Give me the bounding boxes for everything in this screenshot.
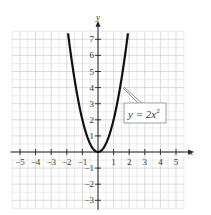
svg-text:5: 5 bbox=[90, 67, 95, 77]
svg-text:−3: −3 bbox=[84, 195, 94, 205]
svg-text:1: 1 bbox=[90, 131, 95, 141]
svg-text:2: 2 bbox=[127, 157, 132, 167]
svg-text:2: 2 bbox=[90, 115, 95, 125]
svg-text:−2: −2 bbox=[62, 157, 72, 167]
x-axis-label: x bbox=[188, 147, 193, 157]
axes bbox=[11, 21, 194, 210]
y-axis-label: y bbox=[95, 12, 100, 22]
svg-text:−2: −2 bbox=[84, 179, 94, 189]
svg-text:−5: −5 bbox=[15, 157, 25, 167]
svg-text:1: 1 bbox=[111, 157, 116, 167]
svg-text:4: 4 bbox=[90, 83, 95, 93]
svg-text:3: 3 bbox=[90, 99, 95, 109]
curve-label-exponent: 2 bbox=[156, 107, 160, 115]
parabola-chart: −5−4−3−2−112345−3−2−11234567 y = 2x2 x y bbox=[0, 0, 211, 215]
svg-text:3: 3 bbox=[143, 157, 148, 167]
curve-label-text: y = 2x bbox=[127, 108, 156, 120]
svg-text:−3: −3 bbox=[46, 157, 56, 167]
svg-text:−4: −4 bbox=[31, 157, 41, 167]
svg-text:7: 7 bbox=[90, 34, 95, 44]
svg-text:6: 6 bbox=[90, 50, 95, 60]
svg-text:4: 4 bbox=[158, 157, 163, 167]
svg-text:5: 5 bbox=[174, 157, 179, 167]
svg-text:y = 2x2: y = 2x2 bbox=[127, 107, 160, 120]
svg-text:−1: −1 bbox=[84, 163, 94, 173]
